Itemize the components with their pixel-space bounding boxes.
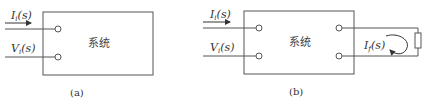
input-current-label-a: Ii(s): [10, 9, 32, 23]
caption-a: (a): [70, 87, 84, 98]
input-voltage-label-a: Vi(s): [11, 42, 35, 56]
output-loop-wire-b: [342, 28, 418, 33]
system-label-b: 系统: [289, 36, 311, 49]
input-voltage-label-b: Vi(s): [210, 41, 234, 55]
loop-current-arrow-icon: [386, 35, 407, 54]
diagram-b: Ii(s) Vi(s) 系统 If(s) (b): [203, 8, 421, 97]
terminal-bottom-right-b: [336, 53, 342, 59]
caption-b: (b): [289, 86, 303, 97]
terminal-top-left-b: [256, 25, 262, 31]
terminal-bottom-left-b: [256, 53, 262, 59]
two-port-system-diagrams: Ii(s) Vi(s) 系统 (a) Ii(s) Vi(s) 系统 If(s) …: [0, 0, 423, 101]
terminal-bottom-a: [55, 54, 61, 60]
load-resistor-icon: [415, 33, 421, 48]
terminal-top-a: [55, 26, 61, 32]
input-current-label-b: Ii(s): [209, 8, 231, 22]
loop-current-label-b: If(s): [363, 39, 385, 53]
system-label-a: 系统: [88, 37, 110, 50]
diagram-a: Ii(s) Vi(s) 系统 (a): [5, 9, 153, 98]
terminal-top-right-b: [336, 25, 342, 31]
